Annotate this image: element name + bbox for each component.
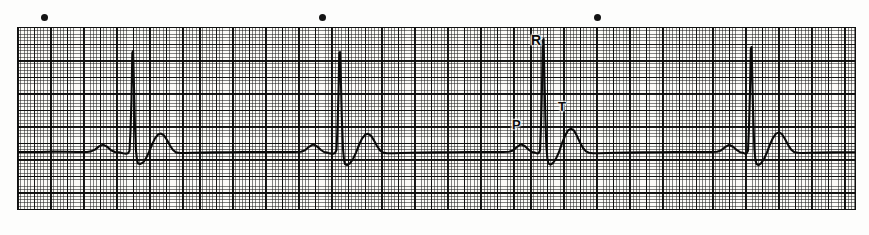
ecg-paper-border — [17, 27, 856, 210]
p-wave-label: P — [512, 118, 521, 131]
calibration-dot-2 — [319, 14, 326, 21]
r-wave-label: R — [531, 33, 541, 47]
ecg-strip-root: PRT — [0, 0, 869, 235]
calibration-dot-1 — [41, 14, 48, 21]
t-wave-label: T — [558, 100, 566, 113]
ecg-graph-paper — [17, 27, 856, 210]
calibration-dot-3 — [594, 14, 601, 21]
